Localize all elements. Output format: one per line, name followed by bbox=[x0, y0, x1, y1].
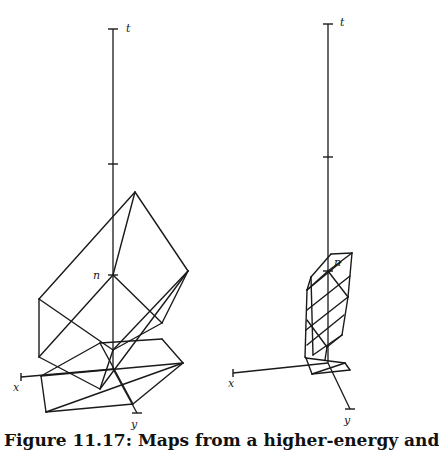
polytope-edge bbox=[41, 376, 46, 412]
polytope-edge bbox=[348, 253, 352, 297]
n-label: n bbox=[334, 256, 341, 269]
polytope-edge bbox=[162, 271, 188, 323]
right-panel-3d-plot: txyn bbox=[228, 16, 355, 427]
polytope-edge bbox=[328, 271, 348, 297]
polytope-edge bbox=[305, 290, 307, 357]
figure-caption: Figure 11.17: Maps from a higher-energy … bbox=[0, 430, 375, 450]
y-axis bbox=[113, 369, 137, 413]
left-panel-3d-plot: txyn bbox=[13, 22, 188, 431]
x-axis bbox=[233, 363, 328, 373]
polytope-edge bbox=[345, 363, 350, 370]
n-label: n bbox=[93, 269, 100, 282]
t-axis-label: t bbox=[340, 16, 345, 29]
t-axis-label: t bbox=[126, 22, 131, 35]
polytope-edge bbox=[311, 277, 313, 355]
x-axis-label: x bbox=[228, 377, 235, 390]
polytope-edge bbox=[162, 339, 183, 363]
x-axis-label: x bbox=[13, 381, 20, 394]
polytope-edge bbox=[135, 192, 188, 271]
polytope-edge bbox=[113, 271, 188, 350]
polytope-edge bbox=[331, 253, 352, 254]
polytope-edge bbox=[325, 347, 327, 360]
polytope-edge bbox=[113, 323, 162, 350]
polytope-edge bbox=[133, 363, 183, 404]
polytope-edge bbox=[306, 358, 312, 374]
y-axis-label: y bbox=[343, 414, 351, 427]
